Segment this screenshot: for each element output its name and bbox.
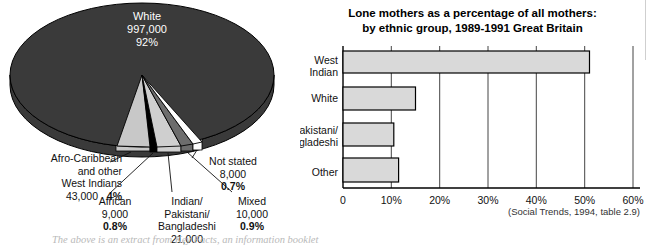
bar-west-indian (343, 51, 590, 73)
callout-mixed-count: 10,000 (222, 208, 282, 221)
x-tick-30: 30% (477, 194, 498, 206)
bar-chart-title: Lone mothers as a percentage of all moth… (300, 6, 645, 36)
x-tick-40: 40% (526, 194, 547, 206)
category-label-pakistani-line1: Pakistani/ (300, 124, 338, 136)
callout-mixed-line1: Mixed (222, 195, 282, 208)
callout-notstated-count: 8,000 (188, 168, 278, 181)
callout-notstated-percent: 0.7% (188, 180, 278, 193)
bar-white (343, 87, 416, 110)
pie-chart-figure: White 997,000 92% Afro-Caribbean and oth… (0, 0, 300, 248)
x-tick-10: 10% (381, 194, 402, 206)
callout-afro-line1: Afro-Caribbean (2, 152, 122, 165)
pie-callout-mixed: Mixed 10,000 0.9% (222, 195, 282, 233)
bar-other (343, 158, 399, 182)
category-label-white: White (311, 92, 338, 104)
page-edge-rule (645, 0, 646, 60)
bar-chart-x-tick-labels: 0 10% 20% 30% 40% 50% 60% (340, 194, 643, 206)
callout-afro-line2: and other (2, 165, 122, 178)
callout-indian-line2: Pakistani/ (148, 208, 226, 221)
callout-african-line1: African (80, 195, 150, 208)
x-tick-0: 0 (340, 194, 346, 206)
category-label-west-indian-line2: Indian (309, 66, 338, 78)
x-tick-20: 20% (429, 194, 450, 206)
pie-center-label-percent: 92% (92, 36, 202, 49)
category-label-pakistani-line2: Bangladeshi (300, 136, 338, 148)
bar-chart-source: (Social Trends, 1994, table 2.9) (300, 206, 640, 217)
bar-chart-title-line1: Lone mothers as a percentage of all moth… (300, 6, 645, 21)
x-tick-60: 60% (622, 194, 643, 206)
pie-callout-not-stated: Not stated 8,000 0.7% (188, 155, 278, 193)
bar-chart-category-labels: West Indian White Pakistani/ Bangladeshi… (300, 54, 338, 178)
page-caption: The above is an extract from Key Facts, … (52, 234, 352, 245)
pie-center-label-name: White (92, 10, 202, 23)
bar-chart-title-line2: by ethnic group, 1989-1991 Great Britain (300, 21, 645, 36)
callout-african-percent: 0.8% (80, 220, 150, 233)
callout-indian-line1: Indian/ (148, 195, 226, 208)
callout-african-count: 9,000 (80, 208, 150, 221)
bar-chart-svg: West Indian White Pakistani/ Bangladeshi… (300, 44, 650, 209)
bar-chart-figure: Lone mothers as a percentage of all moth… (300, 0, 655, 248)
callout-notstated-line1: Not stated (188, 155, 278, 168)
figure-page: White 997,000 92% Afro-Caribbean and oth… (0, 0, 655, 248)
category-label-west-indian-line1: West (314, 54, 338, 66)
bar-pakistani-bangladeshi (343, 123, 394, 146)
callout-mixed-percent: 0.9% (222, 220, 282, 233)
pie-center-label-count: 997,000 (92, 23, 202, 36)
callout-afro-line3: West Indians (2, 177, 122, 190)
pie-center-label: White 997,000 92% (92, 10, 202, 49)
bar-chart-bars (343, 51, 590, 182)
category-label-other: Other (312, 166, 339, 178)
callout-indian-line3: Bangladeshi (148, 220, 226, 233)
x-tick-50: 50% (574, 194, 595, 206)
pie-callout-african: African 9,000 0.8% (80, 195, 150, 233)
